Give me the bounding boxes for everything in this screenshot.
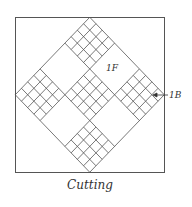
label-1f: 1F (106, 63, 118, 73)
on-point-nine-patch (15, 17, 164, 172)
cutting-diagram (0, 0, 192, 207)
figure-caption: Cutting (0, 178, 180, 192)
arrow-1b (153, 93, 168, 97)
label-1b: 1B (169, 90, 181, 100)
